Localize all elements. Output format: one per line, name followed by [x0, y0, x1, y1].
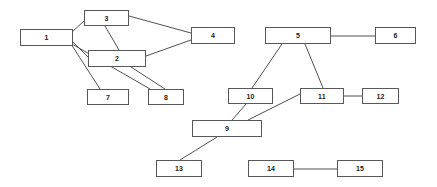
node-label: 8: [164, 93, 168, 100]
node-label: 1: [44, 34, 48, 41]
node-9[interactable]: 9: [192, 120, 262, 137]
node-12[interactable]: 12: [362, 88, 399, 104]
node-label: 3: [104, 14, 108, 21]
node-3[interactable]: 3: [84, 10, 129, 26]
node-label: 15: [356, 165, 364, 172]
node-layer: 123456789101112131415: [0, 0, 437, 187]
node-label: 13: [175, 165, 183, 172]
node-label: 11: [318, 92, 326, 99]
diagram-canvas: 123456789101112131415: [0, 0, 437, 187]
node-15[interactable]: 15: [337, 160, 383, 177]
node-8[interactable]: 8: [148, 89, 184, 105]
node-13[interactable]: 13: [156, 160, 202, 177]
node-6[interactable]: 6: [375, 27, 416, 44]
node-label: 6: [393, 32, 397, 39]
node-14[interactable]: 14: [248, 160, 294, 177]
node-5[interactable]: 5: [265, 27, 331, 44]
node-4[interactable]: 4: [191, 27, 235, 44]
node-2[interactable]: 2: [88, 50, 146, 67]
node-label: 12: [376, 92, 384, 99]
node-label: 2: [115, 55, 119, 62]
node-label: 4: [211, 32, 215, 39]
node-10[interactable]: 10: [228, 88, 273, 104]
node-7[interactable]: 7: [87, 89, 129, 105]
node-label: 10: [246, 92, 254, 99]
node-label: 14: [267, 165, 275, 172]
node-label: 7: [106, 93, 110, 100]
node-1[interactable]: 1: [20, 29, 73, 46]
node-label: 5: [296, 32, 300, 39]
node-11[interactable]: 11: [300, 88, 344, 104]
node-label: 9: [225, 125, 229, 132]
